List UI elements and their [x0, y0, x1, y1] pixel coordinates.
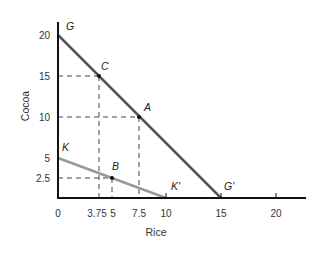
x-axis-label: Rice: [145, 226, 166, 238]
x-tick-3.75: 3.75: [87, 208, 107, 219]
y-tick-15: 15: [39, 71, 51, 82]
label-g: G: [66, 20, 74, 32]
point-a: [137, 115, 141, 119]
y-tick-2.5: 2.5: [36, 173, 50, 184]
y-axis-label: Cocoa: [19, 91, 31, 122]
x-tick-15: 15: [215, 208, 227, 219]
x-tick-7.5: 7.5: [132, 208, 146, 219]
label-a: A: [143, 101, 151, 113]
label-k-prime: K': [171, 180, 181, 192]
label-g-prime: G': [224, 180, 235, 192]
x-tick-20: 20: [270, 208, 282, 219]
point-c: [97, 74, 101, 78]
y-tick-5: 5: [44, 153, 50, 164]
y-tick-10: 10: [39, 112, 51, 123]
point-b: [110, 176, 114, 180]
label-c: C: [101, 60, 109, 72]
x-tick-5: 5: [110, 208, 116, 219]
y-tick-20: 20: [39, 30, 51, 41]
label-b: B: [112, 160, 119, 172]
ppf-chart: 20 15 10 5 2.5 0 3.75 5 7.5 10 15 20 Ric…: [0, 0, 325, 257]
label-k: K: [62, 141, 70, 153]
x-tick-10: 10: [160, 208, 172, 219]
x-tick-0: 0: [55, 208, 61, 219]
